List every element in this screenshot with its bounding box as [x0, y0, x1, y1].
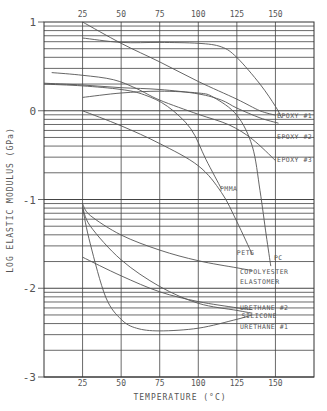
series-label: PC: [274, 254, 283, 262]
y-tick-label: -2: [23, 282, 36, 295]
y-axis-ticks: 10-1-2-3: [23, 16, 44, 384]
x-tick-top: 150: [268, 10, 283, 19]
curve-epoxy-2: [44, 83, 279, 123]
curve-epoxy-1: [83, 38, 282, 118]
series-label: PETG: [237, 249, 255, 257]
series-label: URETHANE #1: [240, 323, 289, 331]
series-label: EPOXY #2: [277, 133, 312, 141]
series-labels: EPOXY #1EPOXY #2EPOXY #3PMMAPETGPCCOPOLY…: [220, 112, 312, 331]
chart: EPOXY #1EPOXY #2EPOXY #3PMMAPETGPCCOPOLY…: [0, 0, 327, 411]
series-label: ELASTOMER: [240, 278, 280, 286]
x-tick-top: 100: [191, 10, 206, 19]
x-axis-title: TEMPERATURE (°C): [133, 393, 226, 402]
x-tick-bottom: 125: [230, 379, 245, 388]
y-tick-label: 0: [29, 105, 36, 118]
series-label: COPOLYESTER: [240, 268, 289, 276]
series-label: EPOXY #3: [277, 156, 312, 164]
y-tick-label: -3: [23, 371, 36, 384]
y-axis-title: LOG ELASTIC MODULUS (GPa): [6, 127, 15, 272]
curve-pc: [83, 91, 271, 266]
x-tick-top: 50: [116, 10, 126, 19]
series-label: PMMA: [220, 185, 238, 193]
x-tick-bottom: 150: [268, 379, 283, 388]
series-label: URETHANE #2: [240, 304, 289, 312]
series-label: SILICONE: [241, 312, 276, 320]
y-tick-label: 1: [29, 16, 36, 29]
y-tick-label: -1: [23, 194, 36, 207]
series-label: EPOXY #1: [277, 112, 312, 120]
x-tick-bottom: 100: [191, 379, 206, 388]
x-tick-top: 25: [78, 10, 88, 19]
curve-petg: [83, 111, 253, 255]
x-tick-bottom: 25: [78, 379, 88, 388]
curve-copolyester-elastomer: [83, 204, 253, 271]
x-tick-top: 125: [230, 10, 245, 19]
x-tick-bottom: 75: [155, 379, 165, 388]
x-tick-bottom: 50: [116, 379, 126, 388]
x-tick-top: 75: [155, 10, 165, 19]
